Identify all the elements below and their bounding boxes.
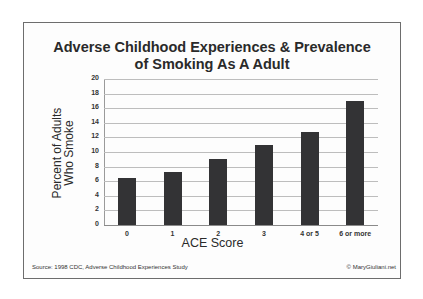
y-tick-label: 12 [79, 132, 99, 139]
y-tick-label: 20 [79, 74, 99, 81]
x-axis-line [104, 225, 378, 226]
x-axis-label: ACE Score [150, 236, 275, 250]
y-tick-label: 8 [79, 162, 99, 169]
gridline [104, 123, 378, 124]
credit-note: © MaryGiuliani.net [347, 264, 396, 270]
bar-4-or-5 [301, 132, 319, 225]
y-tick-label: 14 [79, 118, 99, 125]
bar-2 [209, 159, 227, 225]
y-axis-label-line-2: Who Smoke [63, 103, 75, 203]
x-tick-label: 6 or more [330, 230, 380, 237]
chart-title-line-1: Adverse Childhood Experiences & Prevalen… [23, 39, 401, 56]
gridline [104, 137, 378, 138]
gridline [104, 196, 378, 197]
gridline [104, 210, 378, 211]
chart-title: Adverse Childhood Experiences & Prevalen… [23, 39, 401, 73]
x-tick-label: 4 or 5 [285, 230, 335, 237]
bar-1 [164, 172, 182, 225]
plot-area: 0246810121416182001234 or 56 or more [104, 79, 378, 225]
bar-0 [118, 178, 136, 225]
gridline [104, 167, 378, 168]
y-tick-label: 4 [79, 191, 99, 198]
gridline [104, 181, 378, 182]
gridline [104, 108, 378, 109]
gridline [104, 79, 378, 80]
source-note: Source: 1998 CDC, Adverse Childhood Expe… [32, 264, 188, 270]
y-tick-label: 10 [79, 147, 99, 154]
chart-title-line-2: of Smoking As A Adult [23, 56, 401, 73]
y-tick-label: 2 [79, 205, 99, 212]
gridline [104, 94, 378, 95]
y-tick-label: 6 [79, 176, 99, 183]
y-axis-label: Percent of Adults Who Smoke [51, 103, 75, 203]
gridline [104, 152, 378, 153]
bar-6-or-more [346, 101, 364, 225]
x-tick-label: 0 [102, 230, 152, 237]
y-tick-label: 18 [79, 89, 99, 96]
bar-3 [255, 145, 273, 225]
y-tick-label: 16 [79, 103, 99, 110]
y-tick-label: 0 [79, 220, 99, 227]
